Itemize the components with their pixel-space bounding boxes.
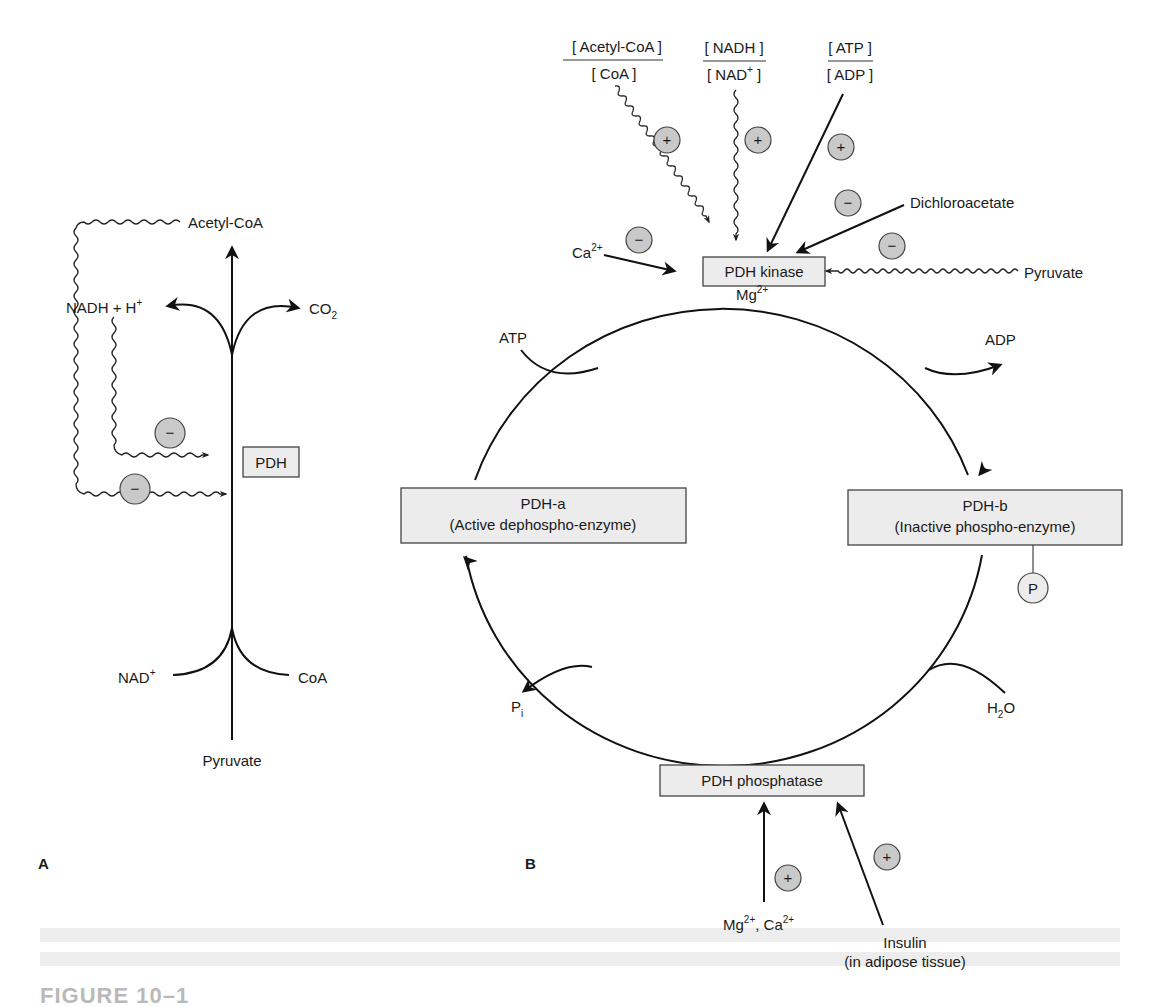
phosphorylation-arc bbox=[475, 309, 968, 480]
ratio-denominator: [ CoA ] bbox=[591, 65, 636, 82]
plus-sign: + bbox=[784, 869, 793, 886]
panel-b-letter: B bbox=[525, 855, 536, 872]
dichloroacetate-label: Dichloroacetate bbox=[910, 194, 1014, 211]
pdh-b-title: PDH-b bbox=[962, 497, 1007, 514]
adp-label: ADP bbox=[985, 331, 1016, 348]
coa-input-curve bbox=[232, 628, 289, 675]
pi-label: Pi bbox=[511, 698, 523, 719]
nad-label: NAD+ bbox=[118, 667, 156, 686]
pyruvate-wavy-arrow bbox=[826, 269, 1018, 273]
dephosphorylation-arc bbox=[466, 555, 982, 766]
co2-branch-arrow bbox=[232, 306, 298, 355]
nadh-nad-ratio: [ NADH ] [ NAD+ ] bbox=[703, 39, 766, 83]
ratio-denominator: [ NAD+ ] bbox=[707, 64, 761, 83]
insulin-label: Insulin bbox=[883, 934, 926, 951]
minus-sign: − bbox=[131, 480, 140, 497]
phosphate-label: P bbox=[1028, 580, 1038, 597]
panel-a: − − PDH Acetyl-CoA NADH + H+ CO2 NAD+ Co… bbox=[38, 214, 338, 872]
arc-arrowhead-pdha bbox=[465, 558, 467, 560]
pdh-a-title: PDH-a bbox=[520, 495, 566, 512]
plus-sign: + bbox=[754, 131, 763, 148]
figure-label: FIGURE 10–1 bbox=[40, 983, 189, 1007]
arc-arrowhead-pdhb bbox=[980, 468, 985, 474]
mg-label: Mg2+ bbox=[736, 284, 768, 303]
atp-ratio-arrow bbox=[768, 94, 843, 250]
atp-input-curve bbox=[521, 350, 598, 374]
minus-sign: − bbox=[166, 424, 175, 441]
acetyl-coa-label: Acetyl-CoA bbox=[188, 214, 263, 231]
pdh-kinase-label: PDH kinase bbox=[724, 263, 803, 280]
pdh-a-subtitle: (Active dephospho-enzyme) bbox=[450, 516, 637, 533]
adp-output-arrow bbox=[925, 365, 1000, 374]
plus-sign: + bbox=[837, 138, 846, 155]
atp-label: ATP bbox=[499, 329, 527, 346]
nadh-ratio-wavy-arrow bbox=[734, 90, 738, 240]
pdh-phosphatase-label: PDH phosphatase bbox=[701, 772, 823, 789]
coa-label: CoA bbox=[298, 669, 327, 686]
nadh-h-label: NADH + H+ bbox=[66, 297, 142, 316]
plus-sign: + bbox=[883, 848, 892, 865]
plus-sign: + bbox=[663, 131, 672, 148]
pdh-label: PDH bbox=[255, 454, 287, 471]
h2o-label: H2O bbox=[987, 699, 1015, 720]
minus-sign: − bbox=[888, 237, 897, 254]
acetylcoa-coa-ratio: [ Acetyl-CoA ] [ CoA ] bbox=[563, 38, 663, 82]
ratio-denominator: [ ADP ] bbox=[827, 66, 873, 83]
insulin-context-label: (in adipose tissue) bbox=[844, 953, 966, 970]
panel-a-letter: A bbox=[38, 855, 49, 872]
atp-adp-ratio: [ ATP ] [ ADP ] bbox=[827, 39, 873, 83]
pdh-b-subtitle: (Inactive phospho-enzyme) bbox=[895, 518, 1076, 535]
acetylcoa-ratio-wavy-arrow bbox=[615, 86, 709, 222]
ca-arrow bbox=[604, 255, 674, 271]
nad-input-curve bbox=[173, 628, 232, 675]
nadh-branch-arrow bbox=[168, 305, 232, 355]
ratio-numerator: [ ATP ] bbox=[828, 39, 872, 56]
faint-caption-line bbox=[40, 928, 1120, 942]
ratio-numerator: [ NADH ] bbox=[704, 39, 763, 56]
minus-sign: − bbox=[844, 194, 853, 211]
ratio-numerator: [ Acetyl-CoA ] bbox=[572, 38, 662, 55]
pyruvate-label: Pyruvate bbox=[202, 752, 261, 769]
pyruvate-label: Pyruvate bbox=[1024, 264, 1083, 281]
minus-sign: − bbox=[635, 231, 644, 248]
ca-label: Ca2+ bbox=[572, 242, 603, 261]
panel-b: PDH kinase Mg2+ PDH-a (Active dephospho-… bbox=[401, 38, 1122, 970]
h2o-input-curve bbox=[929, 664, 1005, 693]
co2-label: CO2 bbox=[309, 300, 338, 321]
